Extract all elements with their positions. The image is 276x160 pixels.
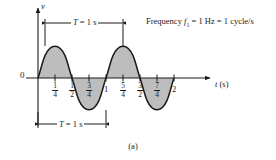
tick-numerator: 1: [52, 82, 58, 90]
tick-label-3-4: 3 4: [86, 82, 92, 99]
period-label-bottom: T = 1 s: [57, 120, 84, 129]
tick-numerator: 3: [137, 82, 143, 90]
tick-denominator: 4: [52, 90, 58, 99]
y-axis-label: v: [41, 2, 45, 11]
tick-denominator: 2: [69, 90, 75, 99]
frequency-annotation: Frequency f1 = 1 Hz = 1 cycle/s: [146, 17, 254, 28]
tick-denominator: 2: [137, 90, 143, 99]
period-value: = 1 s: [78, 17, 97, 27]
tick-denominator: 4: [86, 90, 92, 99]
tick-label-1: 1: [104, 84, 108, 94]
tick-label-1-2: 1 2: [69, 82, 75, 99]
period-value: = 1 s: [64, 119, 83, 129]
tick-label-3-2: 3 2: [137, 82, 143, 99]
tick-numerator: 3: [86, 82, 92, 90]
period-label-top: T = 1 s: [71, 18, 98, 27]
figure-caption: (a): [128, 142, 137, 151]
sine-wave-figure: v t (s) 0 1 4 1 2 3 4 1 5 4 3 2 7 4 2 T …: [0, 0, 276, 160]
tick-numerator: 1: [69, 82, 75, 90]
tick-denominator: 4: [154, 90, 160, 99]
frequency-prefix: Frequency: [146, 16, 184, 26]
tick-label-7-4: 7 4: [154, 82, 160, 99]
x-axis-label: t (s): [215, 80, 228, 89]
origin-label: 0: [20, 71, 25, 80]
tick-numerator: 5: [120, 82, 126, 90]
tick-numerator: 7: [154, 82, 160, 90]
tick-label-2: 2: [172, 84, 176, 94]
tick-denominator: 4: [120, 90, 126, 99]
tick-label-5-4: 5 4: [120, 82, 126, 99]
x-axis-unit: (s): [217, 79, 228, 89]
frequency-value: = 1 Hz = 1 cycle/s: [189, 16, 253, 26]
tick-label-1-4: 1 4: [52, 82, 58, 99]
